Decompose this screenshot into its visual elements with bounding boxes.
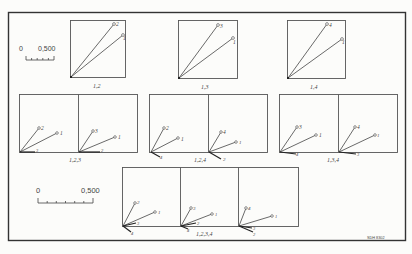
vector-label: 1: [319, 132, 322, 138]
scale-start-label: 0: [19, 45, 23, 52]
vector-label: 2: [137, 200, 140, 205]
vector-label: 2: [116, 21, 119, 27]
scale-end-label: 0,500: [38, 45, 56, 52]
panel-1-2-3-4: 2 1 3 4 3 1 2 4 4 1 3 2 1,2,3,4: [123, 168, 299, 238]
vector-label: 1: [215, 212, 217, 217]
panel-1-2-3: 2 1 3 3 1 2 1,2,3: [20, 95, 138, 164]
scale-bar-1: 0 0,500: [19, 45, 56, 60]
scale-start-label: 0: [36, 186, 40, 195]
panel-label: 1,3: [201, 84, 209, 90]
vector-label: 1: [123, 35, 126, 41]
panel-1-2-4: 2 1 4 4 1 2 1,2,4: [150, 95, 268, 164]
vector-label: 3: [219, 23, 223, 29]
vector-label: 1: [233, 39, 236, 45]
figure-id-tag: SDH 8302: [367, 236, 385, 240]
vector-label: 3: [137, 221, 140, 226]
vector-label: 2: [197, 221, 200, 226]
panel-1-4: 4 1 1,4: [287, 21, 346, 91]
outer-frame: [9, 13, 406, 241]
panel-label: 1,3,4: [327, 157, 339, 163]
vector-label: 3: [94, 128, 98, 134]
vector-diagram-figure: 0 0,500 2 1 1,2 3 1 1,3 4 1 1,4: [0, 0, 412, 254]
vector-label: 2: [253, 232, 256, 237]
vector-label: 4: [248, 206, 251, 211]
panel-label: 1,2: [93, 83, 101, 89]
vector-label: 3: [298, 124, 302, 130]
vector-label: 2: [41, 125, 44, 131]
vector-label: 1: [377, 133, 380, 138]
vector-label: 4: [223, 129, 226, 135]
panel-label: 1,2,3: [69, 157, 81, 163]
panel-1-3: 3 1 1,3: [178, 21, 238, 91]
panel-1-2: 2 1 1,2: [70, 21, 126, 90]
scale-end-label: 0,500: [81, 186, 100, 195]
vector-label: 3: [193, 206, 196, 211]
vector-label: 4: [357, 124, 360, 130]
vector-label: 4: [329, 22, 332, 28]
vector-label: 4: [131, 231, 134, 236]
panel-label: 1,4: [310, 84, 318, 90]
vector-label: 2: [223, 157, 226, 162]
scale-bar-2: 0 0,500: [36, 186, 100, 203]
vector-label: 1: [275, 214, 277, 219]
vector-label: 2: [166, 125, 169, 131]
panel-label: 1,2,4: [194, 157, 206, 163]
vector-label: 4: [187, 228, 190, 233]
vector-label: 1: [60, 130, 63, 136]
vector-label: 1: [181, 136, 184, 142]
vector-label: 1: [239, 140, 242, 145]
vector-label: 1: [158, 210, 161, 215]
vector-label: 1: [342, 39, 345, 45]
panel-1-3-4: 3 1 4 4 1 3 1,3,4: [280, 95, 398, 164]
vector-label: 4: [160, 155, 163, 160]
panel-label: 1,2,3,4: [196, 231, 213, 237]
vector-label: 1: [118, 134, 121, 140]
